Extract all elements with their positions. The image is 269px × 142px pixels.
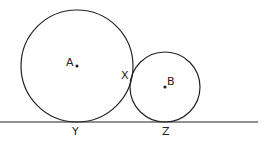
center-a-point xyxy=(75,64,78,67)
label-b: B xyxy=(167,76,175,87)
label-x: X xyxy=(121,70,129,81)
label-y: Y xyxy=(72,126,79,137)
label-a: A xyxy=(66,57,74,68)
label-z: Z xyxy=(162,126,170,137)
tangent-circles-diagram xyxy=(0,0,269,142)
